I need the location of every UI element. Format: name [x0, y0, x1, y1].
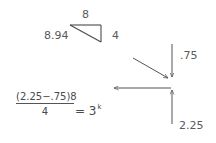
down-arrow-label: .75: [180, 50, 198, 61]
equation-denominator: 4: [16, 104, 74, 117]
equation-numerator: (2.25−.75)8: [16, 92, 74, 104]
right-triangle: [70, 25, 101, 42]
triangle-hypotenuse-label: 8.94: [44, 30, 69, 41]
diagonal-arrow: [133, 58, 168, 78]
equation-equals: = 3: [75, 104, 97, 118]
up-arrow-label: 2.25: [179, 120, 204, 131]
equation-fraction: (2.25−.75)8 4: [16, 92, 74, 117]
triangle-top-label: 8: [82, 9, 89, 20]
triangle-right-label: 4: [112, 30, 119, 41]
equation-rhs: = 3k: [75, 103, 102, 118]
equation-exponent: k: [98, 103, 102, 111]
